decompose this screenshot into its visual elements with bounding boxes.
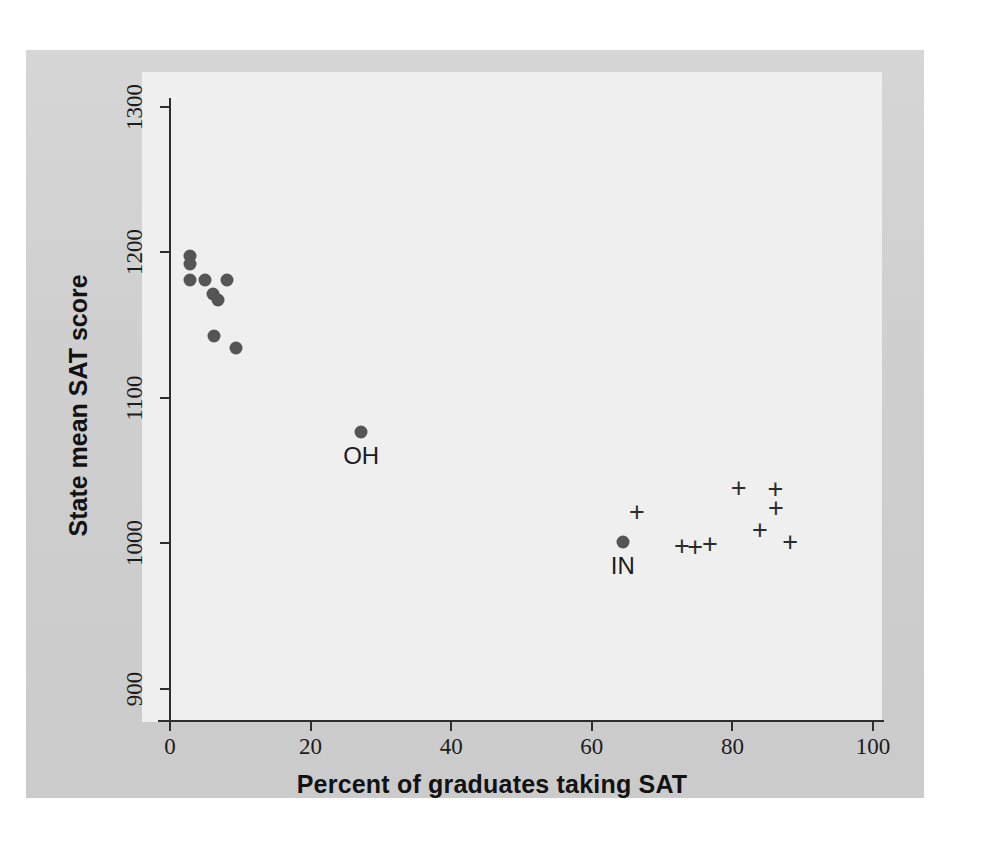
- point-label-oh: OH: [343, 442, 379, 470]
- y-tick-mark: [160, 251, 169, 253]
- x-tick-mark: [310, 722, 312, 731]
- x-tick-label: 60: [580, 734, 603, 760]
- data-point-plus: +: [752, 516, 768, 543]
- y-tick-label: 1200: [122, 229, 148, 275]
- x-axis-line: [158, 720, 884, 722]
- x-axis-title: Percent of graduates taking SAT: [0, 770, 984, 799]
- data-point-dot: [230, 342, 243, 355]
- x-tick-mark: [872, 722, 874, 731]
- x-tick-label: 20: [299, 734, 322, 760]
- y-tick-mark: [160, 688, 169, 690]
- data-point-dot: [199, 273, 212, 286]
- figure-root: 020406080100 9001000110012001300 +++++++…: [0, 0, 984, 853]
- x-tick-label: 0: [164, 734, 176, 760]
- y-axis-title: State mean SAT score: [64, 277, 93, 537]
- y-tick-label: 1000: [122, 520, 148, 566]
- x-tick-label: 80: [721, 734, 744, 760]
- data-point-plus: +: [768, 495, 784, 522]
- data-point-dot: [208, 330, 221, 343]
- data-point-plus: +: [782, 528, 798, 555]
- x-tick-mark: [450, 722, 452, 731]
- data-point-dot: [211, 294, 224, 307]
- data-point-dot: [355, 426, 368, 439]
- x-tick-label: 100: [856, 734, 891, 760]
- data-point-dot: [220, 273, 233, 286]
- y-tick-mark: [160, 397, 169, 399]
- data-point-dot: [616, 535, 629, 548]
- y-tick-label: 900: [122, 666, 148, 712]
- y-tick-mark: [160, 106, 169, 108]
- data-point-plus: +: [687, 534, 703, 561]
- x-tick-mark: [169, 722, 171, 731]
- x-tick-mark: [591, 722, 593, 731]
- data-point-plus: +: [629, 499, 645, 526]
- data-point-dot: [183, 273, 196, 286]
- y-tick-label: 1100: [122, 375, 148, 421]
- data-point-dot: [183, 257, 196, 270]
- y-axis-line: [169, 98, 171, 722]
- data-point-plus: +: [731, 474, 747, 501]
- x-tick-mark: [731, 722, 733, 731]
- y-tick-label: 1300: [122, 84, 148, 130]
- y-tick-mark: [160, 542, 169, 544]
- point-label-in: IN: [611, 552, 635, 580]
- x-tick-label: 40: [440, 734, 463, 760]
- data-point-plus: +: [702, 531, 718, 558]
- scatter-chart: 020406080100 9001000110012001300 +++++++…: [0, 0, 984, 853]
